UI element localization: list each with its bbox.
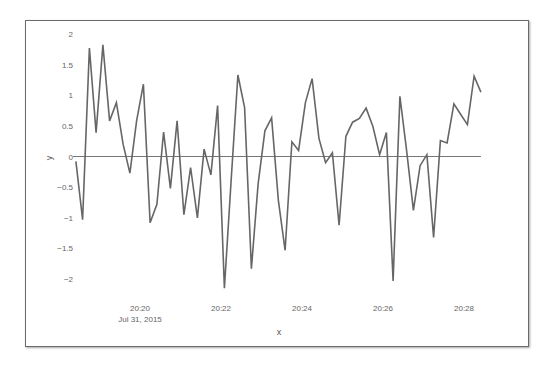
y-tick-label: 2 [69, 30, 74, 39]
x-tick-date-label: Jul 31, 2015 [118, 315, 162, 324]
y-axis-title: y [44, 155, 54, 160]
y-tick-label: 0.5 [62, 122, 74, 131]
x-axis-title: x [277, 327, 282, 337]
y-tick-label: 0 [69, 153, 74, 162]
series-line-y [76, 45, 481, 288]
line-chart: 21.510.50−0.5−1−1.5−2 20:2020:2220:2420:… [0, 0, 552, 367]
y-tick-label: 1.5 [62, 61, 74, 70]
x-tick-label: 20:20 [130, 304, 151, 313]
y-tick-label: −1 [64, 214, 74, 223]
y-axis-ticks: 21.510.50−0.5−1−1.5−2 [57, 30, 73, 284]
x-tick-label: 20:24 [292, 304, 313, 313]
y-tick-label: −0.5 [57, 183, 73, 192]
x-tick-label: 20:22 [211, 304, 232, 313]
y-tick-label: −2 [64, 275, 74, 284]
y-tick-label: −1.5 [57, 244, 73, 253]
y-tick-label: 1 [69, 91, 74, 100]
x-axis-ticks: 20:2020:2220:2420:2620:28 [130, 304, 475, 313]
x-tick-label: 20:26 [373, 304, 394, 313]
x-tick-label: 20:28 [454, 304, 475, 313]
